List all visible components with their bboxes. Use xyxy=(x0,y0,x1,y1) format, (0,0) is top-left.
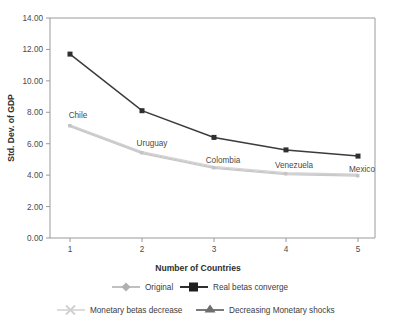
x-tick-label: 4 xyxy=(284,245,289,254)
square-marker-icon xyxy=(189,283,198,292)
y-tick-label: 12.00 xyxy=(23,45,44,54)
line-chart: 14.00 12.00 10.00 8.00 6.00 4.00 2.00 0.… xyxy=(0,0,397,324)
legend-item-original[interactable]: Original xyxy=(112,283,173,293)
x-tick-label: 5 xyxy=(356,245,361,254)
legend-label-real-betas-converge: Real betas converge xyxy=(213,283,289,292)
y-tick-label: 4.00 xyxy=(27,171,43,180)
point-label-chile: Chile xyxy=(69,111,88,120)
legend-item-monetary-betas-decrease[interactable]: Monetary betas decrease xyxy=(57,306,183,316)
y-tick-label: 0.00 xyxy=(27,234,43,243)
diamond-marker-icon xyxy=(122,283,131,292)
legend-label-decreasing-monetary-shocks: Decreasing Monetary shocks xyxy=(229,306,335,315)
y-tick-label: 10.00 xyxy=(23,77,44,86)
legend-item-real-betas-converge[interactable]: Real betas converge xyxy=(180,283,289,293)
chart-container: 14.00 12.00 10.00 8.00 6.00 4.00 2.00 0.… xyxy=(0,0,397,324)
point-label-venezuela: Venezuela xyxy=(275,161,314,170)
x-axis-ticks: 1 2 3 4 5 xyxy=(68,238,361,254)
x-axis-title: Number of Countries xyxy=(155,263,241,273)
point-label-mexico: Mexico xyxy=(349,165,375,174)
legend-label-original: Original xyxy=(145,283,173,292)
y-tick-label: 8.00 xyxy=(27,108,43,117)
y-tick-label: 14.00 xyxy=(23,14,44,23)
legend-label-monetary-betas-decrease: Monetary betas decrease xyxy=(90,306,183,315)
y-axis-title: Std. Dev. of GDP xyxy=(6,94,16,162)
y-tick-label: 6.00 xyxy=(27,140,43,149)
x-tick-label: 2 xyxy=(140,245,145,254)
y-axis-ticks: 14.00 12.00 10.00 8.00 6.00 4.00 2.00 0.… xyxy=(23,14,51,243)
legend-item-decreasing-monetary-shocks[interactable]: Decreasing Monetary shocks xyxy=(196,305,335,316)
triangle-marker-icon xyxy=(205,305,216,313)
series-markers-light xyxy=(68,124,359,177)
y-tick-label: 2.00 xyxy=(27,203,43,212)
point-label-colombia: Colombia xyxy=(206,156,241,165)
x-tick-label: 1 xyxy=(68,245,73,254)
x-tick-label: 3 xyxy=(212,245,217,254)
point-label-uruguay: Uruguay xyxy=(137,139,169,148)
